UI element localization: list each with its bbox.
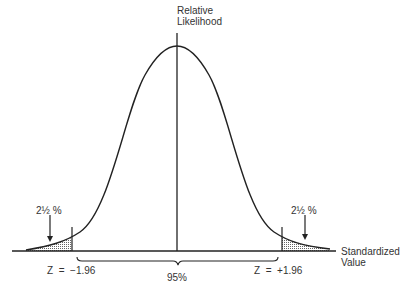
y-axis-label-line1: Relative [177, 5, 222, 16]
x-axis-label: Standardized Value [341, 246, 400, 268]
normal-curve-diagram: Relative Likelihood 2½ % 2½ % Standardiz… [0, 0, 406, 290]
left-arrow-head [47, 236, 53, 242]
center-percent-label: 95% [167, 272, 187, 283]
right-z-label: Z = +1.96 [254, 265, 302, 276]
left-tail-label: 2½ % [36, 205, 62, 216]
y-axis-label: Relative Likelihood [177, 5, 222, 27]
left-z-label: Z = −1.96 [47, 265, 95, 276]
x-axis-label-line1: Standardized [341, 246, 400, 257]
y-axis-label-line2: Likelihood [177, 16, 222, 27]
x-axis-label-line2: Value [341, 257, 400, 268]
bell-curve [26, 46, 330, 250]
right-arrow-head [302, 234, 308, 240]
right-tail-label: 2½ % [291, 205, 317, 216]
confidence-brace [77, 257, 278, 265]
